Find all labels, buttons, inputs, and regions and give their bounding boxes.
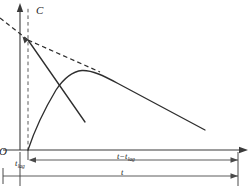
lag-dimension-label-sub: lag xyxy=(18,163,25,169)
x-axis-arrowhead xyxy=(239,147,248,153)
concentration-time-diagram: C O tlag t−tlag t xyxy=(0,0,251,191)
dashed-tangent-group xyxy=(0,18,100,72)
rising-peak-decay-curve xyxy=(28,70,205,150)
elapsed-dimension-label-sub: lag xyxy=(128,156,135,162)
concentration-curve-group xyxy=(28,70,205,150)
elapsed-left-arrowhead xyxy=(29,157,37,163)
elapsed-dimension-label-main: t−t xyxy=(117,151,128,161)
y-axis-arrowhead xyxy=(17,3,23,12)
elapsed-dimension-label: t−tlag xyxy=(117,151,135,162)
elapsed-right-arrowhead xyxy=(231,157,239,163)
figure-container: C O tlag t−tlag t xyxy=(0,0,251,191)
axis-group xyxy=(3,3,248,153)
total-right-arrowhead xyxy=(231,173,239,179)
total-dimension-label: t xyxy=(121,167,124,177)
origin-label: O xyxy=(0,145,7,157)
upper-left-dashed-segment xyxy=(0,18,28,40)
y-axis-label: C xyxy=(36,4,44,16)
